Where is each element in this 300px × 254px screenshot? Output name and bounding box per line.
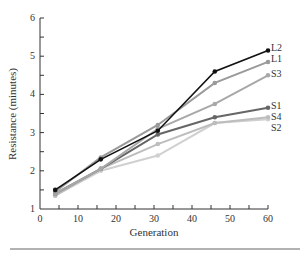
data-point bbox=[99, 167, 104, 172]
data-point bbox=[156, 123, 161, 128]
x-axis-title: Generation bbox=[130, 226, 179, 238]
series-lines bbox=[53, 48, 270, 198]
x-tick-label: 60 bbox=[263, 213, 273, 224]
series-line-s3 bbox=[55, 75, 268, 193]
series-line-s4 bbox=[55, 117, 268, 195]
data-point bbox=[213, 81, 218, 86]
data-point bbox=[213, 102, 218, 107]
y-tick-label: 4 bbox=[30, 88, 35, 99]
series-label-s4: S4 bbox=[271, 111, 282, 122]
data-point bbox=[156, 142, 161, 147]
series-label-l2: L2 bbox=[271, 42, 282, 53]
y-tick-label: 5 bbox=[30, 50, 35, 61]
data-point bbox=[156, 128, 161, 133]
x-tick-label: 40 bbox=[187, 213, 197, 224]
series-line-s2 bbox=[55, 119, 268, 195]
data-point bbox=[213, 69, 218, 74]
data-point bbox=[53, 188, 58, 193]
x-tick-label: 50 bbox=[225, 213, 235, 224]
axes: 0102030405060123456 bbox=[30, 12, 273, 224]
x-tick-label: 20 bbox=[111, 213, 121, 224]
data-point bbox=[156, 153, 161, 158]
series-labels: S2S4S1S3L1L2 bbox=[271, 42, 282, 133]
data-point bbox=[99, 157, 104, 162]
data-point bbox=[213, 121, 218, 126]
y-axis-title: Resistance (minutes) bbox=[6, 68, 19, 160]
x-tick-label: 30 bbox=[149, 213, 159, 224]
line-chart: 0102030405060123456 S2S4S1S3L1L2 Generat… bbox=[0, 0, 300, 254]
series-label-s2: S2 bbox=[271, 122, 282, 133]
data-point bbox=[213, 115, 218, 120]
y-tick-label: 3 bbox=[30, 127, 35, 138]
data-point bbox=[266, 60, 271, 65]
x-tick-label: 10 bbox=[73, 213, 83, 224]
data-point bbox=[266, 73, 271, 78]
series-label-l1: L1 bbox=[271, 53, 282, 64]
y-tick-label: 2 bbox=[30, 165, 35, 176]
data-point bbox=[266, 48, 271, 53]
x-tick-label: 0 bbox=[38, 213, 43, 224]
data-point bbox=[266, 115, 271, 120]
y-tick-label: 6 bbox=[30, 12, 35, 23]
series-label-s1: S1 bbox=[271, 100, 282, 111]
data-point bbox=[266, 105, 271, 110]
y-tick-label: 1 bbox=[30, 203, 35, 214]
series-label-s3: S3 bbox=[271, 68, 282, 79]
